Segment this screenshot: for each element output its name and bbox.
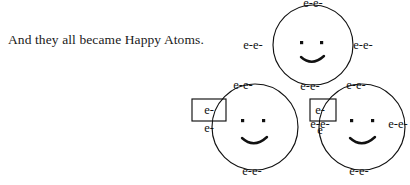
atom-left-loose-electron: e-: [204, 121, 214, 135]
atom-top-electron-pair-bottom: e-e-: [300, 79, 319, 93]
atom-right-electron-pair-right: e-e-: [388, 117, 407, 131]
atom-left-right-eye: [262, 119, 265, 122]
atom-top-electron-pair-top: e-e-: [303, 0, 322, 10]
atom-left-circle: [212, 84, 298, 170]
atom-top-right-eye: [320, 41, 323, 44]
atom-right-electron-pair-bottom: e-e-: [349, 164, 368, 178]
atom-left-boxed-electron: e-: [204, 103, 214, 117]
atom-left: e-e- e-e- e-e- e- e-: [204, 78, 330, 178]
atom-top-circle: [273, 5, 353, 85]
atom-right-electron-pair-top: e-e-: [346, 78, 365, 92]
atom-top-electron-pair-right: e-e-: [353, 38, 372, 52]
atom-top-left-eye: [300, 41, 303, 44]
atom-right-smile: [350, 137, 375, 143]
atom-right-loose-electron: e: [317, 123, 323, 137]
atom-top-smile: [301, 56, 324, 62]
atom-left-left-eye: [241, 119, 244, 122]
happy-atoms-diagram: e-e- e-e- e-e- e-e- e-e- e-e- e-e- e- e-…: [0, 0, 410, 185]
atom-left-electron-pair-bottom: e-e-: [242, 164, 261, 178]
atom-right-left-eye: [350, 119, 353, 122]
atom-left-electron-pair-top: e-e-: [233, 78, 252, 92]
figure-canvas: And they all became Happy Atoms. e-e- e-…: [0, 0, 410, 185]
atom-right-right-eye: [371, 119, 374, 122]
atom-left-smile: [242, 137, 267, 143]
atom-right-boxed-electron: e-: [315, 103, 325, 117]
atom-top-electron-pair-left: e-e-: [243, 38, 262, 52]
